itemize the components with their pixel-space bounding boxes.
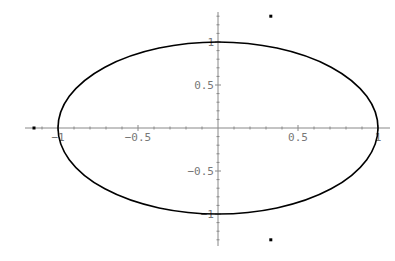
data-point	[33, 127, 36, 130]
data-point	[269, 15, 272, 18]
plot-area: −1−0.50.5110.5−0.5−1	[0, 0, 395, 261]
y-tick-label: −0.5	[188, 165, 215, 178]
y-tick-label: 0.5	[194, 79, 214, 92]
x-tick-label: 0.5	[288, 131, 308, 144]
data-point	[269, 238, 272, 241]
x-tick-label: −0.5	[125, 131, 152, 144]
